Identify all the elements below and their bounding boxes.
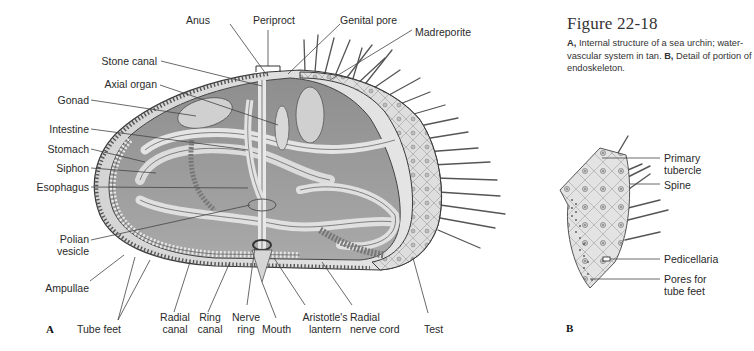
figure-title: Figure 22-18	[567, 14, 658, 34]
label-periproct: Periproct	[253, 14, 295, 26]
label-primary-tubercle: Primary tubercle	[664, 152, 701, 176]
label-siphon: Siphon	[30, 162, 89, 174]
label-mouth: Mouth	[262, 323, 291, 335]
label-test: Test	[424, 323, 443, 335]
sea-urchin-body	[94, 66, 441, 282]
label-aristotles-lantern: Aristotle's lantern	[295, 311, 355, 335]
label-polian-vesicle: Polian vesicle	[30, 233, 89, 257]
panel-letter-a: A	[46, 323, 54, 335]
label-radial-canal: Radial canal	[152, 311, 198, 335]
label-ring-canal: Ring canal	[193, 311, 227, 335]
panel-letter-b: B	[566, 322, 573, 334]
label-stomach: Stomach	[30, 143, 89, 155]
label-esophagus: Esophagus	[20, 181, 89, 193]
label-ampullae: Ampullae	[20, 282, 89, 294]
label-pores-for-tube-feet: Pores for tube feet	[664, 273, 707, 297]
endoskeleton-detail	[560, 136, 668, 288]
label-spine: Spine	[664, 179, 691, 191]
label-tube-feet: Tube feet	[77, 323, 121, 335]
figure-caption: A, Internal structure of a sea urchin; w…	[567, 37, 752, 75]
label-radial-nerve-cord: Radial nerve cord	[350, 311, 400, 335]
label-anus: Anus	[186, 14, 210, 26]
label-axial-organ: Axial organ	[100, 78, 157, 90]
label-pedicellaria: Pedicellaria	[664, 253, 718, 265]
label-gonad: Gonad	[40, 94, 89, 106]
label-nerve-ring: Nerve ring	[228, 311, 264, 335]
label-stone-canal: Stone canal	[100, 55, 157, 67]
label-genital-pore: Genital pore	[340, 14, 397, 26]
label-madreporite: Madreporite	[415, 26, 471, 38]
label-intestine: Intestine	[30, 123, 89, 135]
caption-part-a-letter: A,	[567, 38, 576, 48]
